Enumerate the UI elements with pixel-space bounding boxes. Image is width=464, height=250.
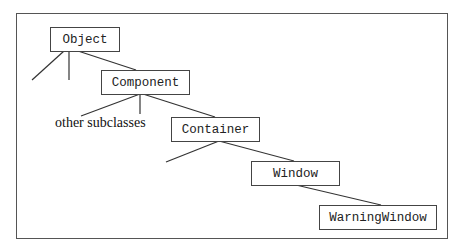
edge-window-warningwindow [296,185,381,205]
edge-object-component [78,51,136,70]
edge-container-window [219,141,294,161]
edge-component-container [143,94,215,117]
edge-component-other-1 [81,94,140,116]
other-subclasses-label: other subclasses [55,115,146,131]
node-window: Window [251,161,340,186]
node-warningwindow: WarningWindow [319,205,437,230]
node-component: Component [101,70,190,95]
edge-container-unnamed [166,141,219,162]
edge-object-unnamed-1 [32,51,64,80]
node-object: Object [50,27,120,52]
node-container: Container [171,117,260,142]
